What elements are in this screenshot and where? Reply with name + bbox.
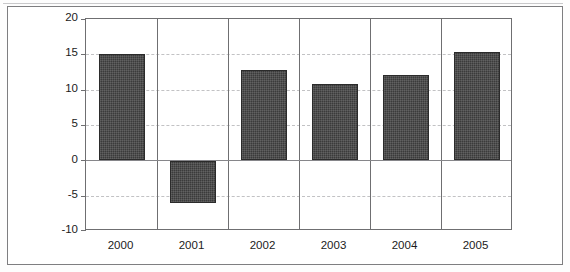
category-separator-2 — [228, 19, 229, 229]
y-axis-labels: 20 15 10 5 0 -5 -10 — [0, 0, 78, 272]
category-separator-3 — [299, 19, 300, 229]
y-tick-label-5: 5 — [6, 118, 78, 130]
category-separator-4 — [370, 19, 371, 229]
y-tick-label-20: 20 — [6, 12, 78, 24]
x-tick-label-2000: 2000 — [85, 240, 156, 252]
x-tick-label-2001: 2001 — [156, 240, 227, 252]
bar-2005[interactable] — [454, 52, 500, 160]
category-separator-5 — [441, 19, 442, 229]
y-tick-label-neg5: -5 — [6, 189, 78, 201]
bar-chart: 20 15 10 5 0 -5 -10 — [0, 0, 570, 272]
plot-area — [85, 18, 512, 230]
y-tick-label-15: 15 — [6, 47, 78, 59]
x-tick-label-2002: 2002 — [227, 240, 298, 252]
scanned-page: 20 15 10 5 0 -5 -10 — [0, 0, 570, 272]
category-separator-1 — [157, 19, 158, 229]
y-tick-mark-20 — [81, 19, 86, 20]
x-tick-label-2004: 2004 — [369, 240, 440, 252]
x-tick-label-2005: 2005 — [440, 240, 511, 252]
bar-2001[interactable] — [170, 161, 216, 203]
y-tick-mark-neg10 — [81, 230, 86, 231]
zero-line — [86, 160, 511, 161]
y-tick-label-neg10: -10 — [6, 224, 78, 236]
bar-2000[interactable] — [99, 54, 145, 160]
y-tick-label-0: 0 — [6, 154, 78, 166]
x-tick-label-2003: 2003 — [298, 240, 369, 252]
y-tick-label-10: 10 — [6, 83, 78, 95]
bar-2004[interactable] — [383, 75, 429, 160]
bar-2003[interactable] — [312, 84, 358, 160]
bar-2002[interactable] — [241, 70, 287, 160]
